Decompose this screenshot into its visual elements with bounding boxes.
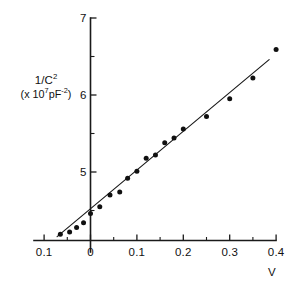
data-point [74, 225, 79, 230]
data-point [153, 153, 158, 158]
data-point [274, 47, 279, 52]
data-point [107, 193, 112, 198]
x-tick-label: 0.1 [129, 246, 146, 258]
y-axis-ticks [91, 18, 97, 211]
data-point [250, 76, 255, 81]
data-point [81, 220, 86, 225]
axes [34, 18, 276, 252]
x-tick-label: 0.1 [36, 246, 53, 258]
data-point [227, 96, 232, 101]
x-axis-name: V [268, 266, 276, 278]
plot-area: 0.100.10.20.30.4 567 V [0, 0, 287, 290]
fit-line [57, 60, 269, 237]
y-tick-label: 6 [80, 89, 87, 101]
data-point [58, 232, 63, 237]
x-tick-label: 0.3 [221, 246, 238, 258]
data-point [172, 136, 177, 141]
data-point [125, 176, 130, 181]
x-axis-ticks [44, 235, 276, 241]
x-tick-label: 0 [87, 246, 94, 258]
data-point [204, 114, 209, 119]
y-axis-tick-labels: 567 [80, 12, 87, 178]
y-tick-label: 7 [80, 12, 87, 24]
data-point [181, 126, 186, 131]
data-point [67, 230, 72, 235]
data-point [88, 211, 93, 216]
data-point [134, 169, 139, 174]
data-point [144, 156, 149, 161]
x-tick-label: 0.2 [175, 246, 192, 258]
x-axis-tick-labels: 0.100.10.20.30.4 [36, 246, 285, 258]
y-tick-label: 5 [80, 166, 87, 178]
data-point [97, 204, 102, 209]
x-tick-label: 0.4 [268, 246, 285, 258]
data-point [117, 190, 122, 195]
chart-figure: 1/C2 (x 107pF-2) 0.100.10.20.30.4 567 V [0, 0, 287, 290]
regression-line [57, 60, 269, 237]
data-point [162, 140, 167, 145]
